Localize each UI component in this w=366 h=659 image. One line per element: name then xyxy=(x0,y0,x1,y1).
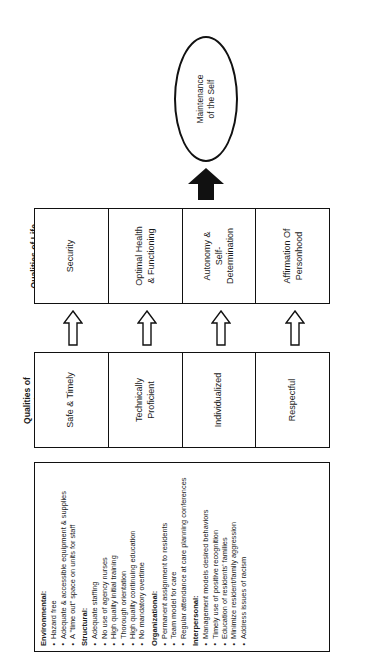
qol-cell-autonomy: Autonomy & Self- Determination xyxy=(183,209,257,303)
qoc-individualized-line1: Individualized xyxy=(213,373,225,428)
list-item: No mandatory overtime xyxy=(137,468,146,646)
list-item: Permanent assignment to residents xyxy=(160,468,169,646)
qol-affirmation-line2: Personhood xyxy=(293,229,305,284)
list-item: Thorough orientation xyxy=(119,468,128,646)
req-heading-interpersonal: Interpersonal: xyxy=(191,468,201,646)
req-list-interpersonal: Management models desired behaviors Time… xyxy=(201,468,248,646)
req-list-structural: Adequate staffing No use of agency nurse… xyxy=(90,468,146,646)
qol-cell-security: Security xyxy=(35,209,109,303)
qol-autonomy-line3: Determination xyxy=(225,228,237,284)
qol-autonomy-line2: Self- xyxy=(213,228,225,284)
qoc-cell-technically-proficient: Technically Proficient xyxy=(109,353,183,447)
list-item: Adequate staffing xyxy=(90,468,99,646)
qol-autonomy-line1: Autonomy & xyxy=(202,228,214,284)
req-heading-organizational: Organizational: xyxy=(150,468,160,646)
qol-affirmation-line1: Affirmation Of xyxy=(281,229,293,284)
list-item: Regular attendance at care planning conf… xyxy=(179,468,188,646)
solid-up-arrow-icon xyxy=(184,168,228,200)
qualities-of-caring-band: Safe & Timely Technically Proficient Ind… xyxy=(34,352,330,448)
req-group-interpersonal: Interpersonal: Management models desired… xyxy=(191,468,251,646)
diagram-canvas: Maintenance of the Self Qualities of Lif… xyxy=(0,0,366,659)
list-item: Adequate & accessible equipment & suppli… xyxy=(59,468,68,646)
req-group-structural: Structural: Adequate staffing No use of … xyxy=(80,468,150,646)
list-item: Minimize resident/family aggression xyxy=(229,468,238,646)
hollow-up-arrow-icon-1 xyxy=(63,310,83,346)
qualities-of-life-band: Security Optimal Health & Functioning Au… xyxy=(34,208,330,304)
req-heading-environmental: Environmental: xyxy=(39,468,49,646)
qoc-technically-line2: Proficient xyxy=(145,378,157,422)
list-item: Timely use of positive recognition xyxy=(211,468,220,646)
qol-security-line1: Security xyxy=(66,240,78,273)
list-item: Address issues of racism xyxy=(239,468,248,646)
list-item: Team model for care xyxy=(169,468,178,646)
req-list-environmental: Hazard free Adequate & accessible equipm… xyxy=(49,468,77,646)
qol-optimal-health-line2: & Functioning xyxy=(145,226,157,286)
list-item: High quality initial training xyxy=(109,468,118,646)
care-provider-requirements-box: Environmental: Hazard free Adequate & ac… xyxy=(34,462,330,652)
list-item: Management models desired behaviors xyxy=(201,468,210,646)
req-list-organizational: Permanent assignment to residents Team m… xyxy=(160,468,188,646)
list-item: A "time out" space on units for staff xyxy=(68,468,77,646)
qol-optimal-health-line1: Optimal Health xyxy=(134,226,146,286)
qoc-respectful-line1: Respectful xyxy=(287,379,299,422)
req-group-organizational: Organizational: Permanent assignment to … xyxy=(150,468,191,646)
qualities-of-caring-label-line1: Qualities of xyxy=(22,351,33,451)
req-heading-structural: Structural: xyxy=(80,468,90,646)
list-item: Hazard free xyxy=(49,468,58,646)
maintenance-of-self-ellipse: Maintenance of the Self xyxy=(174,36,238,162)
qol-cell-affirmation: Affirmation Of Personhood xyxy=(256,209,329,303)
hollow-up-arrow-icon-3 xyxy=(211,310,231,346)
ellipse-label: Maintenance of the Self xyxy=(195,74,217,123)
list-item: No use of agency nurses xyxy=(100,468,109,646)
qol-cell-optimal-health: Optimal Health & Functioning xyxy=(109,209,183,303)
qoc-cell-respectful: Respectful xyxy=(256,353,329,447)
qoc-safe-timely-line1: Safe & Timely xyxy=(66,372,78,428)
ellipse-label-line2: of the Self xyxy=(206,74,217,123)
qoc-cell-safe-timely: Safe & Timely xyxy=(35,353,109,447)
care-provider-requirements-content: Environmental: Hazard free Adequate & ac… xyxy=(36,464,328,650)
ellipse-label-line1: Maintenance xyxy=(195,74,206,123)
hollow-up-arrow-icon-2 xyxy=(137,310,157,346)
req-group-environmental: Environmental: Hazard free Adequate & ac… xyxy=(39,468,80,646)
qoc-technically-line1: Technically xyxy=(134,378,146,422)
list-item: High quality continuing education xyxy=(128,468,137,646)
hollow-up-arrow-icon-4 xyxy=(285,310,305,346)
list-item: Education of residents' families xyxy=(220,468,229,646)
qoc-cell-individualized: Individualized xyxy=(183,353,257,447)
